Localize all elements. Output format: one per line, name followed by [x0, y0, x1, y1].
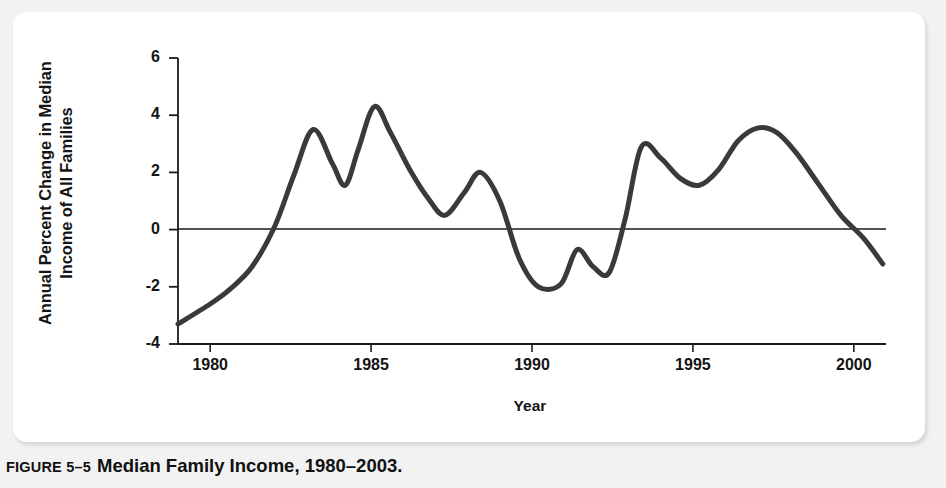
y-tick-label: -4 [120, 334, 160, 352]
y-tick-label: 0 [120, 220, 160, 238]
x-tick-marks [210, 344, 854, 352]
figure-root: Annual Percent Change in Median Income o… [0, 0, 946, 488]
x-tick-label: 1985 [336, 356, 406, 374]
y-tick-label: -2 [120, 277, 160, 295]
y-tick-label: 6 [120, 48, 160, 66]
x-tick-label: 1995 [658, 356, 728, 374]
figure-title: Median Family Income, 1980–2003. [97, 455, 402, 476]
figure-caption: FIGURE 5–5Median Family Income, 1980–200… [6, 455, 402, 477]
y-tick-marks [169, 58, 178, 344]
x-axis-title: Year [430, 397, 630, 415]
figure-number: FIGURE 5–5 [6, 459, 91, 475]
y-axis-title: Annual Percent Change in Median Income o… [35, 33, 77, 353]
income-change-line [178, 106, 883, 324]
plot-area: Annual Percent Change in Median Income o… [0, 0, 946, 430]
x-tick-label: 2000 [819, 356, 889, 374]
x-tick-label: 1980 [175, 356, 245, 374]
x-tick-label: 1990 [497, 356, 567, 374]
y-tick-label: 4 [120, 105, 160, 123]
y-tick-label: 2 [120, 162, 160, 180]
